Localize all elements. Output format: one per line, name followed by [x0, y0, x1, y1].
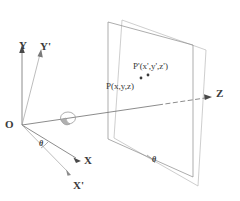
coordinate-rotation-diagram: Y Y' O X X' Z P'(x',y',z') P(x,y,z) θ θ — [0, 0, 240, 201]
x-axis-arrowhead — [73, 157, 81, 163]
diagram-canvas — [0, 0, 240, 201]
point-p-marker — [140, 77, 143, 80]
theta-xy-label: θ — [39, 140, 43, 148]
y-axis-label: Y — [19, 40, 27, 51]
upright-plane — [108, 22, 193, 177]
z-axis-arrowhead — [204, 94, 212, 100]
theta-plane-label: θ — [152, 156, 156, 164]
z-axis-line-dashed — [158, 98, 205, 105]
point-p-label: P(x,y,z) — [106, 82, 134, 91]
x-prime-axis-label: X' — [73, 180, 84, 191]
origin-label: O — [5, 119, 14, 130]
x-axis-label: X — [84, 155, 92, 166]
z-axis-label: Z — [216, 88, 223, 99]
z-axis-line — [22, 105, 158, 125]
x-prime-axis-arrowhead — [66, 170, 71, 176]
point-p-prime-label: P'(x',y',z') — [133, 62, 168, 71]
point-p-prime-marker — [147, 74, 150, 77]
y-prime-axis-label: Y' — [40, 41, 51, 52]
y-prime-axis-line — [22, 54, 40, 125]
